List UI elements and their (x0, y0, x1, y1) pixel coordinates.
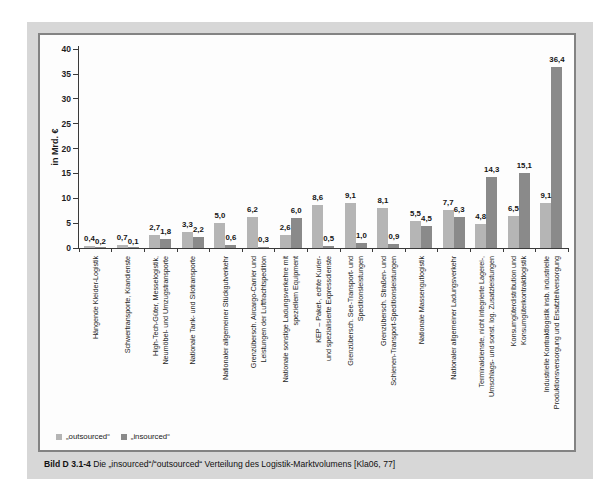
bar-insourced (258, 247, 269, 248)
figure-caption-number: Bild D 3.1-4 (44, 459, 91, 469)
bar-value-outsourced: 2,7 (149, 223, 160, 232)
bar-outsourced (247, 217, 258, 248)
legend-label: „insourced“ (131, 432, 170, 441)
x-axis-tick (274, 249, 275, 252)
legend-swatch-outsourced (56, 434, 62, 440)
figure-page: in Mrd. € 05101520253035400,40,2Hängende… (0, 0, 616, 497)
x-axis-category-label: Nationale Tank- und Silotransporte (182, 256, 203, 426)
bar-insourced (323, 246, 334, 248)
y-axis-line (78, 46, 79, 249)
bar-insourced (193, 237, 204, 248)
bar-value-insourced: 1,8 (160, 227, 171, 236)
bar-value-insourced: 36,4 (549, 55, 564, 64)
y-axis-tick-label: 20 (41, 144, 71, 154)
bar-value-insourced: 0,6 (225, 233, 236, 242)
x-axis-category-label: Grenzübersch. See-Transport- und Spediti… (345, 256, 366, 426)
y-axis-tick-label: 5 (41, 218, 71, 228)
bar-value-outsourced: 9,1 (540, 191, 551, 200)
bar-value-outsourced: 0,4 (84, 234, 95, 243)
x-axis-tick (437, 249, 438, 252)
chart-legend: „outsourced“„insourced“ (56, 432, 170, 441)
y-axis-tick (73, 123, 78, 124)
x-axis-category-label: Schwertransporte, Krandienste (117, 256, 138, 426)
legend-swatch-insourced (121, 434, 127, 440)
bar-value-insourced: 0,2 (95, 237, 106, 246)
bar-outsourced (182, 232, 193, 248)
bar-insourced (519, 173, 530, 248)
bar-value-outsourced: 6,2 (247, 205, 258, 214)
bar-value-outsourced: 0,7 (117, 233, 128, 242)
bar-insourced (128, 247, 139, 248)
x-axis-tick (470, 249, 471, 252)
bar-chart: in Mrd. € 05101520253035400,40,2Hängende… (0, 0, 616, 497)
bar-insourced (551, 67, 562, 248)
x-axis-tick (144, 249, 145, 252)
x-axis-category-label: Grenzübersch. Straßen- und Schienen-Tran… (378, 256, 399, 426)
bar-insourced (486, 177, 497, 248)
y-axis-tick (73, 74, 78, 75)
x-axis-line (78, 248, 569, 249)
bar-value-insourced: 1,0 (356, 231, 367, 240)
x-axis-tick (568, 249, 569, 252)
bar-insourced (356, 243, 367, 248)
bar-insourced (291, 218, 302, 248)
x-axis-tick (307, 249, 308, 252)
bar-value-insourced: 2,2 (193, 225, 204, 234)
bar-outsourced (84, 246, 95, 248)
bar-insourced (160, 239, 171, 248)
y-axis-tick-label: 30 (41, 94, 71, 104)
x-axis-tick (535, 249, 536, 252)
y-axis-tick-label: 35 (41, 69, 71, 79)
bar-value-outsourced: 2,6 (280, 223, 291, 232)
bar-outsourced (377, 208, 388, 248)
bar-value-insourced: 14,3 (484, 165, 499, 174)
bar-value-insourced: 4,5 (421, 214, 432, 223)
bar-outsourced (475, 224, 486, 248)
bar-value-insourced: 0,5 (323, 234, 334, 243)
x-axis-category-label: Nationaler allgemeiner Stückgutverkehr (215, 256, 236, 426)
legend-label: „outsourced“ (66, 432, 110, 441)
bar-outsourced (312, 205, 323, 248)
bar-outsourced (149, 235, 160, 248)
bar-value-insourced: 0,1 (128, 237, 139, 246)
y-axis-tick-label: 40 (41, 44, 71, 54)
bar-outsourced (280, 235, 291, 248)
bar-insourced (225, 245, 236, 248)
x-axis-category-label: Terminaldienste, nicht integrierte Lager… (476, 256, 497, 426)
bar-value-insourced: 6,3 (454, 205, 465, 214)
bar-value-outsourced: 8,6 (312, 193, 323, 202)
bar-value-insourced: 15,1 (517, 161, 532, 170)
bar-value-outsourced: 3,3 (182, 220, 193, 229)
legend-item-insourced: „insourced“ (121, 432, 170, 441)
y-axis-tick-label: 15 (41, 168, 71, 178)
bar-value-insourced: 6,0 (291, 206, 302, 215)
y-axis-tick-label: 25 (41, 119, 71, 129)
bar-value-insourced: 0,9 (388, 232, 399, 241)
x-axis-tick (503, 249, 504, 252)
bar-insourced (421, 226, 432, 248)
y-axis-tick (73, 248, 78, 249)
y-axis-tick (73, 148, 78, 149)
bar-value-outsourced: 9,1 (345, 191, 356, 200)
x-axis-category-label: KEP – Paket-, echte Kurier- und speziali… (313, 256, 334, 426)
x-axis-tick (111, 249, 112, 252)
y-axis-tick (73, 223, 78, 224)
x-axis-tick (79, 249, 80, 252)
x-axis-tick (405, 249, 406, 252)
y-axis-tick (73, 173, 78, 174)
x-axis-tick (177, 249, 178, 252)
bar-insourced (388, 244, 399, 248)
legend-item-outsourced: „outsourced“ (56, 432, 110, 441)
x-axis-category-label: Nationale Massengutlogistik (411, 256, 432, 426)
y-axis-tick-label: 10 (41, 193, 71, 203)
x-axis-category-label: Grenzübersch. Aircargo-Carrier und Leist… (248, 256, 269, 426)
y-axis-tick (73, 98, 78, 99)
bar-outsourced (117, 245, 128, 248)
bar-outsourced (443, 210, 454, 248)
figure-caption: Bild D 3.1-4 Die „insourced“/“outsourced… (44, 459, 395, 469)
x-axis-category-label: Nationale sonstige Ladungsverkehre mit s… (280, 256, 301, 426)
bar-value-outsourced: 8,1 (377, 196, 388, 205)
bar-outsourced (508, 216, 519, 248)
bar-insourced (454, 217, 465, 248)
x-axis-category-label: Industrielle Kontraktlogistik insb. indu… (541, 256, 562, 426)
